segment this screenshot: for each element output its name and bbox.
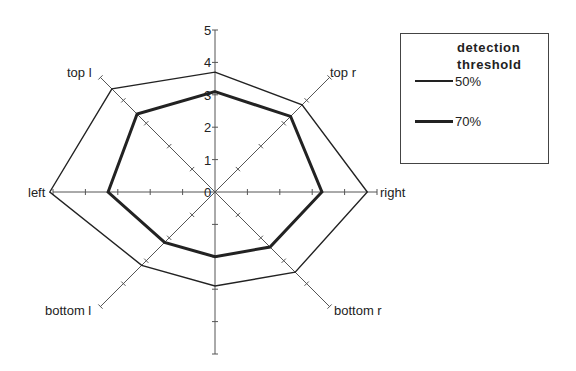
axis-label-left: left xyxy=(28,185,46,200)
legend-title: detection threshold xyxy=(457,39,522,73)
radar-axes xyxy=(53,30,377,354)
axis-label-top-l: top l xyxy=(67,65,92,80)
axis-label-bottom-r: bottom r xyxy=(334,303,382,318)
axis-label-top-r: top r xyxy=(330,65,357,80)
axis-label-bottom-l: bottom l xyxy=(45,303,91,318)
legend-item-50: 50% xyxy=(415,73,481,89)
legend-item-70: 70% xyxy=(415,113,481,129)
tick-label-4: 4 xyxy=(204,55,211,70)
legend: detection threshold 50% 70% xyxy=(400,33,549,164)
legend-swatch-thin-line-icon xyxy=(415,80,453,81)
tick-label-3: 3 xyxy=(204,88,211,103)
legend-label-70: 70% xyxy=(455,114,481,129)
tick-label-5: 5 xyxy=(204,23,211,38)
tick-label-0: 0 xyxy=(204,185,211,200)
legend-swatch-thick-line-icon xyxy=(415,120,453,123)
legend-title-line2: threshold xyxy=(457,56,522,73)
legend-title-line1: detection xyxy=(457,39,522,56)
tick-label-2: 2 xyxy=(204,120,211,135)
tick-label-1: 1 xyxy=(204,153,211,168)
legend-label-50: 50% xyxy=(455,74,481,89)
axis-label-right: right xyxy=(380,185,406,200)
